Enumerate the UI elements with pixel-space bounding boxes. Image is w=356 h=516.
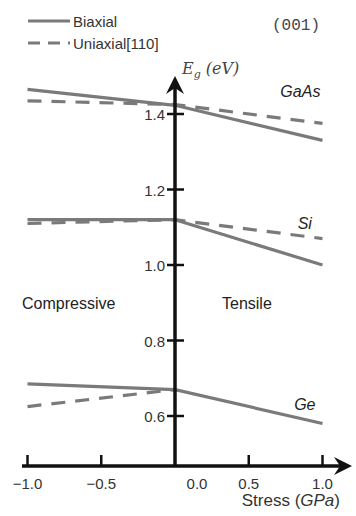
y-tick-label: 1.0 — [144, 257, 165, 274]
material-label-gaas: GaAs — [280, 83, 320, 100]
chart: Biaxial Uniaxial[110] (001) Eg(eV) 0.60.… — [0, 0, 356, 516]
series-line-ge-uniaxial — [28, 390, 176, 407]
y-tick-label: 1.2 — [144, 182, 165, 199]
x-tick-label: 0.5 — [238, 475, 259, 492]
x-tick-label: 1.0 — [312, 475, 333, 492]
x-tick-label: 0.0 — [187, 475, 208, 492]
material-label-si: Si — [298, 215, 313, 232]
region-label-compressive: Compressive — [22, 295, 115, 312]
orientation-annotation: (001) — [272, 17, 320, 35]
y-axis-label: Eg(eV) — [181, 59, 239, 81]
x-axis-label: Stress (GPa) — [242, 491, 340, 510]
legend-label-uniaxial: Uniaxial[110] — [73, 35, 159, 52]
y-tick-label: 0.8 — [144, 333, 165, 350]
y-axis: 0.60.81.01.21.4 — [144, 76, 184, 466]
material-label-ge: Ge — [294, 396, 315, 413]
region-label-tensile: Tensile — [222, 295, 272, 312]
y-tick-label: 0.6 — [144, 408, 165, 425]
x-tick-label: −1.0 — [13, 475, 43, 492]
x-tick-label: −0.5 — [86, 475, 116, 492]
y-tick-label: 1.4 — [144, 106, 165, 123]
x-axis: −1.0−0.50.00.51.0 — [13, 455, 352, 492]
legend: Biaxial Uniaxial[110] — [28, 13, 159, 52]
legend-label-biaxial: Biaxial — [73, 13, 117, 30]
